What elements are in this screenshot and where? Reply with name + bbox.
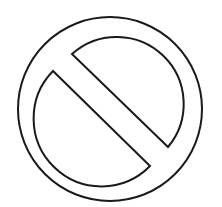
prohibited-symbol: No / prohibited symbol: [0, 0, 222, 207]
inner-lower-segment: [34, 71, 150, 186]
inner-upper-segment: [72, 37, 184, 147]
outer-ring: [18, 17, 202, 201]
prohibited-icon: [0, 0, 222, 207]
